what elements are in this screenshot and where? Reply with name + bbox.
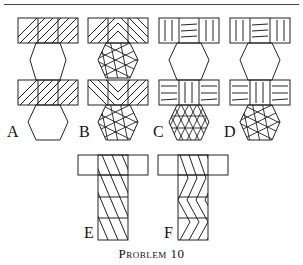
figure-a — [12, 18, 93, 140]
figure-b — [82, 18, 162, 144]
figure-d — [230, 18, 290, 144]
label-c: C — [153, 123, 164, 141]
problem-figure — [0, 0, 303, 265]
label-e: E — [84, 224, 94, 242]
figure-c — [159, 18, 219, 140]
label-f: F — [164, 224, 173, 242]
figure-caption: Problem 10 — [0, 246, 303, 262]
label-a: A — [7, 123, 19, 141]
label-d: D — [224, 123, 236, 141]
label-b: B — [79, 123, 90, 141]
